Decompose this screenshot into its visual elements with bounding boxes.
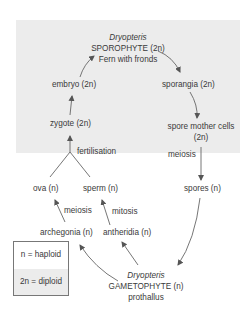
gametophyte-title: GAMETOPHYTE (n) xyxy=(109,282,184,292)
arrow-sporangia-to-spore-mother-cells xyxy=(190,92,197,118)
arrow-embryo-to-sporophyte xyxy=(80,56,94,77)
sporophyte-genus: Dryopteris xyxy=(109,33,146,43)
process-fertilisation: fertilisation xyxy=(77,147,116,157)
arrow-spores-to-gametophyte xyxy=(178,198,200,265)
stage-spore-mother-cells-ploidy: (2n) xyxy=(194,133,209,143)
stage-sporangia: sporangia (2n) xyxy=(162,80,215,90)
stage-antheridia: antheridia (n) xyxy=(103,228,151,238)
arrow-antheridia-to-sperm xyxy=(102,200,110,225)
arrow-zygote-to-embryo xyxy=(70,96,72,115)
arrow-gametophyte-to-archegonia xyxy=(80,245,118,281)
stage-spores: spores (n) xyxy=(184,184,221,194)
stage-ova: ova (n) xyxy=(33,184,58,194)
sporophyte-description: Fern with fronds xyxy=(99,55,158,65)
stage-archegonia: archegonia (n) xyxy=(40,228,93,238)
stage-sperm: sperm (n) xyxy=(83,184,118,194)
legend-haploid: n = haploid xyxy=(14,242,68,268)
stage-embryo: embryo (2n) xyxy=(52,80,96,90)
arrow-sporophyte-to-sporangia xyxy=(158,51,180,72)
stage-zygote: zygote (2n) xyxy=(50,119,91,129)
process-mitosis-sperm: mitosis xyxy=(112,207,137,217)
stage-spore-mother-cells: spore mother cells xyxy=(168,122,235,132)
process-meiosis-ova: meiosis xyxy=(64,206,92,216)
legend-box: n = haploid 2n = diploid xyxy=(13,241,69,296)
sporophyte-title: SPOROPHYTE (2n) xyxy=(91,44,165,54)
gametophyte-genus: Dryopteris xyxy=(127,271,164,281)
legend-diploid: 2n = diploid xyxy=(14,269,68,295)
line-ova-to-fertilisation xyxy=(50,152,70,177)
process-meiosis-spores: meiosis xyxy=(168,150,196,160)
gametophyte-description: prothallus xyxy=(128,293,164,303)
arrow-gametophyte-to-antheridia xyxy=(122,242,138,265)
